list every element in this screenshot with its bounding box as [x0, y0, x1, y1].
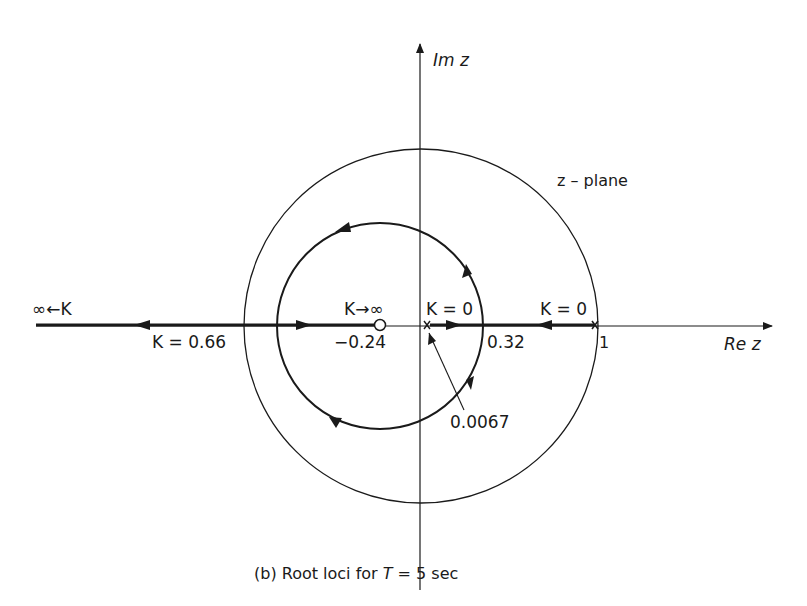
plane-label: z – plane: [557, 171, 628, 190]
k0-left-label: K = 0: [426, 299, 473, 319]
k-inf-label: K→∞: [344, 299, 384, 319]
arrow-cw-icon: [329, 417, 342, 428]
zero-marker: [375, 320, 386, 331]
pointer-arrow-icon: [428, 333, 436, 345]
arrow-left-icon: [536, 320, 552, 330]
caption-prefix: (b) Root loci for: [254, 564, 383, 583]
k-066-label: K = 0.66: [152, 332, 226, 352]
arrow-ccw-icon: [335, 222, 351, 232]
minus-024-label: −0.24: [334, 332, 386, 352]
val-1-label: 1: [599, 333, 609, 352]
val-00067-label: 0.0067: [450, 412, 509, 432]
caption: (b) Root loci for T = 5 sec: [254, 564, 458, 583]
real-axis-label: Re z: [724, 334, 762, 354]
arrow-down-icon: [466, 376, 474, 390]
imag-axis-label: Im z: [433, 50, 470, 70]
caption-suffix: = 5 sec: [393, 564, 459, 583]
k0-right-label: K = 0: [540, 299, 587, 319]
pole-marker-0.0067: [424, 321, 430, 329]
arrow-right-icon: [446, 320, 462, 330]
root-locus-diagram: Im z Re z z – plane ∞←K K = 0.66 K→∞ −0.…: [0, 0, 807, 606]
arrow-right-icon: [296, 320, 312, 330]
val-032-label: 0.32: [487, 332, 525, 352]
arrow-left-icon: [134, 320, 150, 330]
pointer-line: [429, 333, 464, 410]
inf-k-label: ∞←K: [32, 299, 72, 319]
